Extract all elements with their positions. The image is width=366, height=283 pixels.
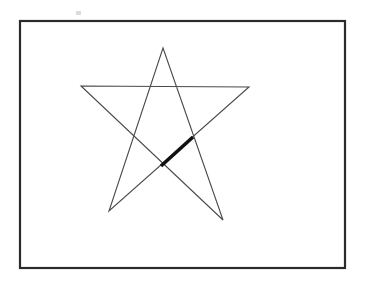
figure-container: Unicursal five-pointed star inside a rec… (0, 0, 366, 283)
star-figure-svg: Unicursal five-pointed star inside a rec… (0, 0, 366, 283)
speck-mark (76, 11, 81, 15)
figure-background (0, 0, 366, 283)
